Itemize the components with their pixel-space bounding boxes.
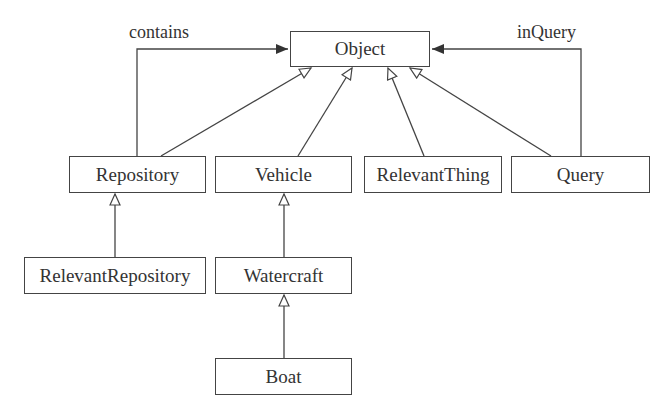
- edge-query-object: [410, 68, 551, 156]
- class-boat: Boat: [215, 358, 352, 395]
- class-relevantrepository: RelevantRepository: [24, 257, 206, 294]
- edge-vehicle-object: [298, 68, 352, 156]
- edge-relevantthing-object: [388, 68, 424, 156]
- class-relevantthing: RelevantThing: [364, 156, 502, 193]
- label-inquery: inQuery: [517, 22, 576, 43]
- class-repository: Repository: [69, 156, 206, 193]
- class-query: Query: [511, 156, 650, 193]
- class-watercraft: Watercraft: [215, 257, 352, 294]
- class-object: Object: [290, 31, 430, 67]
- class-vehicle: Vehicle: [215, 156, 352, 193]
- edge-inquery: [432, 49, 581, 156]
- edge-repository-object: [161, 68, 311, 156]
- label-contains: contains: [129, 22, 189, 43]
- edge-contains: [137, 49, 288, 156]
